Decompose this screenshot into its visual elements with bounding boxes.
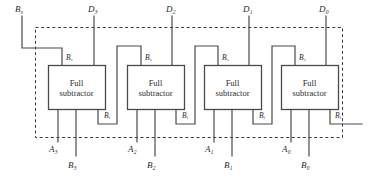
pin-label-fs1-borrow-in-base: B xyxy=(222,53,227,62)
label-difference-0-sub: 0 xyxy=(326,9,329,15)
pin-label-fs1-borrow-out: Bi xyxy=(259,112,265,120)
label-subtrahend-1-sub: 1 xyxy=(230,165,233,171)
label-difference-1-sub: 1 xyxy=(250,9,253,15)
label-subtrahend-0: B0 xyxy=(301,161,309,170)
subtractor-diagram-canvas: Full subtractor Full subtractor Full sub… xyxy=(0,0,369,185)
pin-label-fs0-borrow-out: Bi xyxy=(335,112,341,120)
block-fs1-caption: Full subtractor xyxy=(204,78,261,99)
pin-label-fs2-borrow-in: Bs xyxy=(145,54,151,62)
pin-label-fs0-borrow-in-sub: s xyxy=(304,57,306,62)
label-minuend-3-sub: 3 xyxy=(55,149,58,155)
pin-label-fs2-borrow-out: Bi xyxy=(182,112,188,120)
label-minuend-2-sub: 2 xyxy=(134,149,137,155)
pin-label-fs2-borrow-in-base: B xyxy=(145,53,150,62)
block-fs3-caption-line2: subtractor xyxy=(48,88,105,98)
block-fs0-caption: Full subtractor xyxy=(281,78,338,99)
difference-wires xyxy=(94,16,326,65)
label-minuend-2: A2 xyxy=(128,145,136,154)
label-difference-2-sub: 2 xyxy=(173,9,176,15)
label-subtrahend-1-base: B xyxy=(224,160,230,170)
label-external-borrow-in: Bs xyxy=(15,5,23,14)
label-minuend-0-base: A xyxy=(282,144,288,154)
label-subtrahend-0-sub: 0 xyxy=(307,165,310,171)
pin-label-fs0-borrow-in-base: B xyxy=(299,53,304,62)
label-minuend-3: A3 xyxy=(49,145,57,154)
label-minuend-0: A0 xyxy=(282,145,290,154)
pin-label-fs0-borrow-out-sub: i xyxy=(340,115,341,120)
pin-label-fs1-borrow-in-sub: s xyxy=(227,57,229,62)
block-fs1-caption-line1: Full xyxy=(204,78,261,88)
pin-label-fs3-borrow-out-base: B xyxy=(104,111,109,120)
pin-label-fs2-borrow-out-base: B xyxy=(182,111,187,120)
block-fs3-caption: Full subtractor xyxy=(48,78,105,99)
label-difference-1-base: D xyxy=(243,4,250,14)
pin-label-fs3-borrow-out-sub: i xyxy=(109,115,110,120)
block-fs3-caption-line1: Full xyxy=(48,78,105,88)
pin-label-fs0-borrow-out-base: B xyxy=(335,111,340,120)
label-subtrahend-3-base: B xyxy=(68,160,74,170)
label-difference-3: D3 xyxy=(88,5,97,14)
label-external-borrow-in-base: B xyxy=(15,4,21,14)
pin-label-fs3-borrow-in-base: B xyxy=(66,53,71,62)
label-subtrahend-2-base: B xyxy=(147,160,153,170)
label-subtrahend-1: B1 xyxy=(224,161,232,170)
block-fs2-caption-line1: Full xyxy=(127,78,184,88)
label-difference-2: D2 xyxy=(166,5,175,14)
label-difference-3-sub: 3 xyxy=(95,9,98,15)
pin-label-fs0-borrow-in: Bs xyxy=(299,54,305,62)
label-minuend-3-base: A xyxy=(49,144,55,154)
pin-label-fs1-borrow-in: Bs xyxy=(222,54,228,62)
label-minuend-0-sub: 0 xyxy=(288,149,291,155)
label-subtrahend-2-sub: 2 xyxy=(153,165,156,171)
label-subtrahend-3-sub: 3 xyxy=(74,165,77,171)
pin-label-fs2-borrow-out-sub: i xyxy=(187,115,188,120)
block-fs2-caption: Full subtractor xyxy=(127,78,184,99)
block-fs1-caption-line2: subtractor xyxy=(204,88,261,98)
label-external-borrow-in-sub: s xyxy=(21,9,23,15)
pin-label-fs3-borrow-in-sub: s xyxy=(71,57,73,62)
label-difference-2-base: D xyxy=(166,4,173,14)
label-difference-1: D1 xyxy=(243,5,252,14)
label-minuend-1-sub: 1 xyxy=(211,149,214,155)
label-difference-0-base: D xyxy=(319,4,326,14)
block-fs0-caption-line1: Full xyxy=(281,78,338,88)
label-minuend-1-base: A xyxy=(205,144,211,154)
label-minuend-1: A1 xyxy=(205,145,213,154)
block-fs2-caption-line2: subtractor xyxy=(127,88,184,98)
pin-label-fs2-borrow-in-sub: s xyxy=(150,57,152,62)
label-subtrahend-0-base: B xyxy=(301,160,307,170)
pin-label-fs3-borrow-out: Bi xyxy=(104,112,110,120)
block-fs0-caption-line2: subtractor xyxy=(281,88,338,98)
pin-label-fs1-borrow-out-base: B xyxy=(259,111,264,120)
label-difference-0: D0 xyxy=(319,5,328,14)
label-subtrahend-2: B2 xyxy=(147,161,155,170)
pin-label-fs3-borrow-in: Bs xyxy=(66,54,72,62)
label-minuend-2-base: A xyxy=(128,144,134,154)
label-difference-3-base: D xyxy=(88,4,95,14)
pin-label-fs1-borrow-out-sub: i xyxy=(264,115,265,120)
external-borrow-wire xyxy=(22,16,62,65)
label-subtrahend-3: B3 xyxy=(68,161,76,170)
